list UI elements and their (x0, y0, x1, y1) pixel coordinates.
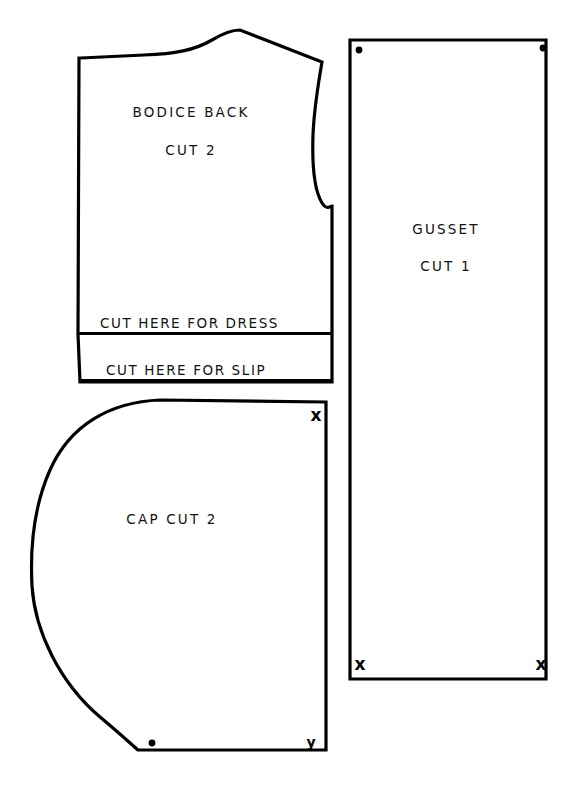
cap-outline (32, 400, 326, 750)
gusset-dot-top-left (356, 47, 363, 54)
piece-cap: x y CAP CUT 2 (32, 400, 326, 750)
piece-gusset: x x GUSSET CUT 1 (350, 40, 547, 679)
pattern-diagram: BODICE BACK CUT 2 CUT HERE FOR DRESS CUT… (0, 0, 584, 793)
gusset-x-marker-bottom-right: x (536, 654, 547, 674)
gusset-x-marker-bottom-left: x (355, 654, 366, 674)
cap-x-marker-top-right: x (311, 405, 322, 425)
gusset-outline (350, 40, 546, 679)
pattern-sheet: BODICE BACK CUT 2 CUT HERE FOR DRESS CUT… (0, 0, 584, 793)
gusset-dot-top-right (540, 45, 547, 52)
cut-here-for-slip-label: CUT HERE FOR SLIP (106, 362, 266, 378)
gusset-cut-label: CUT 1 (420, 258, 471, 274)
bodice-back-name-label: BODICE BACK (132, 104, 249, 120)
cut-here-for-dress-label: CUT HERE FOR DRESS (100, 315, 279, 331)
cap-dot-bottom-edge (149, 740, 156, 747)
cap-name-label: CAP CUT 2 (126, 511, 217, 527)
bodice-back-cut-label: CUT 2 (165, 142, 216, 158)
piece-bodice-back: BODICE BACK CUT 2 CUT HERE FOR DRESS CUT… (78, 30, 332, 382)
gusset-name-label: GUSSET (412, 221, 479, 237)
cap-y-marker-bottom-right: y (306, 734, 315, 750)
